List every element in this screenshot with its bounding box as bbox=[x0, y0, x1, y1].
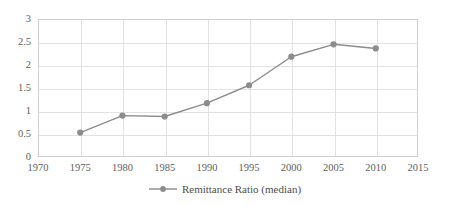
gridline-vertical bbox=[81, 20, 82, 156]
x-axis-tick-label: 1975 bbox=[57, 162, 103, 173]
gridline-vertical bbox=[166, 20, 167, 156]
gridline-vertical bbox=[335, 20, 336, 156]
y-axis-tick-label: 1.5 bbox=[0, 83, 31, 93]
x-axis-tick-label: 1970 bbox=[15, 162, 61, 173]
x-axis-tick-label: 1995 bbox=[226, 162, 272, 173]
y-axis-tick-label: 0 bbox=[0, 152, 31, 162]
gridline-horizontal bbox=[39, 66, 417, 67]
gridline-horizontal bbox=[39, 43, 417, 44]
y-axis-tick-label: 3 bbox=[0, 14, 31, 24]
gridline-vertical bbox=[377, 20, 378, 156]
x-axis-tick-label: 2000 bbox=[268, 162, 314, 173]
gridline-vertical bbox=[208, 20, 209, 156]
legend-line-marker-icon bbox=[149, 184, 177, 194]
plot-area bbox=[38, 19, 418, 157]
y-axis-tick-label: 2 bbox=[0, 60, 31, 70]
x-axis-tick-label: 2005 bbox=[311, 162, 357, 173]
x-axis-tick-label: 1980 bbox=[99, 162, 145, 173]
legend-label: Remittance Ratio (median) bbox=[182, 183, 301, 195]
gridline-horizontal bbox=[39, 135, 417, 136]
gridline-vertical bbox=[123, 20, 124, 156]
y-axis-tick-label: 1 bbox=[0, 106, 31, 116]
line-chart: 00.511.522.53 19701975198019851990199520… bbox=[0, 0, 450, 206]
x-axis-tick-label: 2010 bbox=[353, 162, 399, 173]
x-axis-tick-label: 1985 bbox=[142, 162, 188, 173]
gridline-vertical bbox=[250, 20, 251, 156]
y-axis-tick-label: 2.5 bbox=[0, 37, 31, 47]
x-axis-tick-label: 2015 bbox=[395, 162, 441, 173]
gridline-horizontal bbox=[39, 89, 417, 90]
gridline-horizontal bbox=[39, 112, 417, 113]
y-axis-tick-label: 0.5 bbox=[0, 129, 31, 139]
x-axis-tick-label: 1990 bbox=[184, 162, 230, 173]
gridline-vertical bbox=[292, 20, 293, 156]
legend: Remittance Ratio (median) bbox=[0, 183, 450, 195]
